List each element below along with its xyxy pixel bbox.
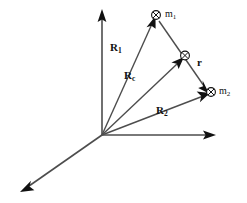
vertical-axis (98, 9, 107, 135)
vector-label-R1-sub: 1 (118, 46, 122, 55)
vector-diagram (0, 0, 247, 203)
vector-label-Rc-sub: c (132, 74, 135, 83)
mass-label-m2: m2 (219, 86, 230, 98)
vector-label-r: r (197, 57, 202, 70)
vector-label-R2-main: R (156, 104, 164, 116)
diagonal-axis-line (29, 135, 102, 186)
mass-point-m2 (207, 88, 216, 97)
diagonal-axis (20, 135, 102, 192)
vector-label-Rc-main: R (124, 69, 132, 81)
vector-label-r-main: r (197, 56, 202, 68)
vector-Rc (102, 57, 184, 135)
horizontal-axis (102, 131, 216, 140)
mass-point-m1 (152, 11, 161, 20)
vector-label-R2-sub: 2 (164, 109, 168, 118)
center-of-mass-point (181, 51, 190, 60)
figure-canvas: R1 Rc R2 r m1 m2 (0, 0, 247, 203)
mass-label-m2-main: m (219, 85, 227, 96)
diagonal-axis-arrowhead (20, 181, 34, 192)
vector-label-R2: R2 (156, 105, 168, 118)
mass-label-m2-sub: 2 (227, 90, 231, 98)
vector-Rc-shaft (102, 64, 177, 135)
vector-label-Rc: Rc (124, 70, 135, 83)
vector-label-R1-main: R (110, 41, 118, 53)
mass-label-m1: m1 (165, 9, 176, 21)
mass-label-m1-main: m (165, 8, 173, 19)
mass-label-m1-sub: 1 (173, 13, 177, 21)
vector-label-R1: R1 (110, 42, 122, 55)
